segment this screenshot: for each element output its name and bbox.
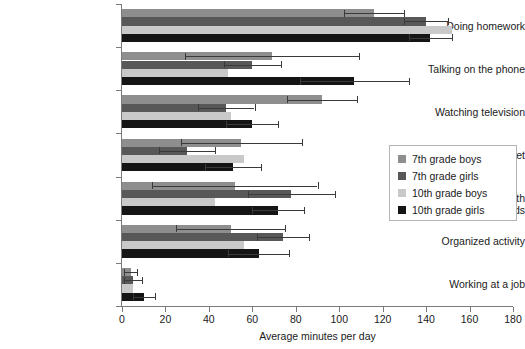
bar xyxy=(122,17,426,25)
bar xyxy=(122,112,231,120)
legend-item[interactable]: 7th grade girls xyxy=(398,168,510,184)
error-bar-cap xyxy=(335,191,336,198)
bar-row xyxy=(122,241,513,249)
bar-row xyxy=(122,249,513,257)
error-bar-cap xyxy=(304,207,305,214)
error-bar-cap xyxy=(226,121,227,128)
x-axis-tick-label: 80 xyxy=(276,313,316,325)
error-bar-cap xyxy=(409,34,410,41)
error-bar xyxy=(205,167,261,168)
x-axis-tick xyxy=(296,307,297,312)
error-bar xyxy=(224,65,280,66)
legend-label: 7th grade boys xyxy=(412,153,481,165)
error-bar xyxy=(185,56,359,57)
error-bar-cap xyxy=(357,96,358,103)
bar xyxy=(122,69,228,77)
error-bar xyxy=(181,143,303,144)
category-tick xyxy=(116,47,121,48)
error-bar xyxy=(228,254,289,255)
error-bar-cap xyxy=(248,191,249,198)
category-tick xyxy=(116,90,121,91)
error-bar-cap xyxy=(252,207,253,214)
error-bar xyxy=(159,151,215,152)
bar xyxy=(122,155,244,163)
error-bar-cap xyxy=(124,269,125,276)
bar-row xyxy=(122,268,513,276)
category-tick xyxy=(116,220,121,221)
error-bar-cap xyxy=(287,96,288,103)
bar-group xyxy=(122,90,513,133)
x-axis-tick xyxy=(209,307,210,312)
category-tick xyxy=(116,306,121,307)
error-bar-cap xyxy=(309,234,310,241)
bar xyxy=(122,26,452,34)
error-bar-cap xyxy=(344,10,345,17)
error-bar xyxy=(152,186,317,187)
error-bar-cap xyxy=(404,10,405,17)
legend-label: 10th grade boys xyxy=(412,187,487,199)
error-bar-cap xyxy=(359,53,360,60)
bar-group xyxy=(122,47,513,90)
bar-row xyxy=(122,95,513,103)
bar-row xyxy=(122,77,513,85)
error-bar xyxy=(257,237,309,238)
bar-row xyxy=(122,17,513,25)
bar-row xyxy=(122,225,513,233)
bar-row xyxy=(122,284,513,292)
x-axis-tick xyxy=(426,307,427,312)
error-bar-cap xyxy=(215,147,216,154)
x-axis-tick xyxy=(513,307,514,312)
bar-row xyxy=(122,233,513,241)
x-axis-title: Average minutes per day xyxy=(122,330,513,342)
x-axis-tick xyxy=(470,307,471,312)
x-axis-tick xyxy=(383,307,384,312)
error-bar-cap xyxy=(289,250,290,257)
error-bar-cap xyxy=(409,78,410,85)
bar-row xyxy=(122,26,513,34)
error-bar-cap xyxy=(205,164,206,171)
error-bar-cap xyxy=(257,234,258,241)
category-tick xyxy=(116,4,121,5)
x-axis-tick-label: 0 xyxy=(102,313,142,325)
bar-row xyxy=(122,293,513,301)
error-bar-cap xyxy=(228,250,229,257)
legend-swatch-icon xyxy=(398,189,406,197)
x-axis-tick-label: 100 xyxy=(319,313,359,325)
category-tick xyxy=(116,133,121,134)
error-bar-cap xyxy=(300,78,301,85)
bar-row xyxy=(122,61,513,69)
legend-label: 10th grade girls xyxy=(412,204,484,216)
legend-swatch-icon xyxy=(398,206,406,214)
error-bar xyxy=(124,272,137,273)
bar-group xyxy=(122,263,513,306)
error-bar-cap xyxy=(185,53,186,60)
bar-row xyxy=(122,112,513,120)
legend-item[interactable]: 7th grade boys xyxy=(398,151,510,167)
x-axis-tick-label: 120 xyxy=(363,313,403,325)
bar-row xyxy=(122,104,513,112)
error-bar-cap xyxy=(159,147,160,154)
legend-swatch-icon xyxy=(398,172,406,180)
error-bar-cap xyxy=(261,164,262,171)
error-bar-cap xyxy=(452,34,453,41)
bar xyxy=(122,198,215,206)
x-axis-tick xyxy=(165,307,166,312)
legend-item[interactable]: 10th grade boys xyxy=(398,185,510,201)
legend-label: 7th grade girls xyxy=(412,170,479,182)
error-bar xyxy=(344,13,405,14)
error-bar-cap xyxy=(137,269,138,276)
x-axis-tick-label: 40 xyxy=(189,313,229,325)
legend-item[interactable]: 10th grade girls xyxy=(398,202,510,218)
error-bar-cap xyxy=(302,139,303,146)
x-axis-tick-label: 180 xyxy=(493,313,525,325)
error-bar-cap xyxy=(318,182,319,189)
error-bar xyxy=(133,297,155,298)
error-bar-cap xyxy=(176,225,177,232)
error-bar-cap xyxy=(133,293,134,300)
category-tick xyxy=(116,263,121,264)
error-bar-cap xyxy=(448,18,449,25)
error-bar-cap xyxy=(404,18,405,25)
bar xyxy=(122,284,133,292)
bar xyxy=(122,241,244,249)
bar-group xyxy=(122,220,513,263)
